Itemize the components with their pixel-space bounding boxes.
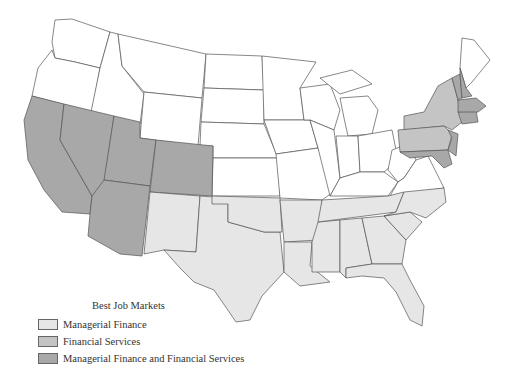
state-new-york bbox=[404, 78, 462, 130]
legend-label: Financial Services bbox=[63, 336, 140, 347]
state-florida bbox=[346, 264, 424, 326]
state-maine bbox=[460, 38, 490, 88]
state-wyoming bbox=[140, 92, 202, 146]
legend-swatch-light bbox=[38, 319, 58, 330]
legend-swatch-medium bbox=[38, 336, 58, 347]
legend-item-managerial-finance: Managerial Finance bbox=[38, 317, 147, 331]
legend-item-both: Managerial Finance and Financial Service… bbox=[38, 351, 244, 365]
state-indiana bbox=[336, 136, 360, 178]
state-south-dakota bbox=[201, 88, 264, 124]
state-kansas bbox=[212, 158, 280, 196]
state-north-dakota bbox=[204, 54, 264, 90]
state-colorado bbox=[150, 140, 213, 196]
state-new-mexico bbox=[144, 192, 200, 254]
state-massachusetts bbox=[458, 98, 486, 112]
legend-label: Managerial Finance and Financial Service… bbox=[63, 353, 244, 364]
state-pennsylvania bbox=[398, 126, 452, 152]
legend-title: Best Job Markets bbox=[92, 300, 165, 311]
legend-swatch-dark bbox=[38, 353, 58, 364]
legend-item-financial-services: Financial Services bbox=[38, 334, 140, 348]
legend-label: Managerial Finance bbox=[63, 319, 147, 330]
state-arizona bbox=[88, 180, 150, 256]
state-mississippi bbox=[312, 220, 340, 272]
